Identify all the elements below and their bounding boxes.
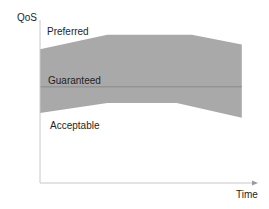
guaranteed-label: Guaranteed (48, 76, 101, 86)
acceptable-label: Acceptable (50, 121, 99, 131)
preferred-label: Preferred (47, 27, 89, 37)
qos-diagram (0, 0, 269, 209)
x-axis-label: Time (236, 190, 258, 200)
y-axis-label: QoS (17, 13, 37, 23)
x-axis-arrow-icon (252, 181, 258, 186)
